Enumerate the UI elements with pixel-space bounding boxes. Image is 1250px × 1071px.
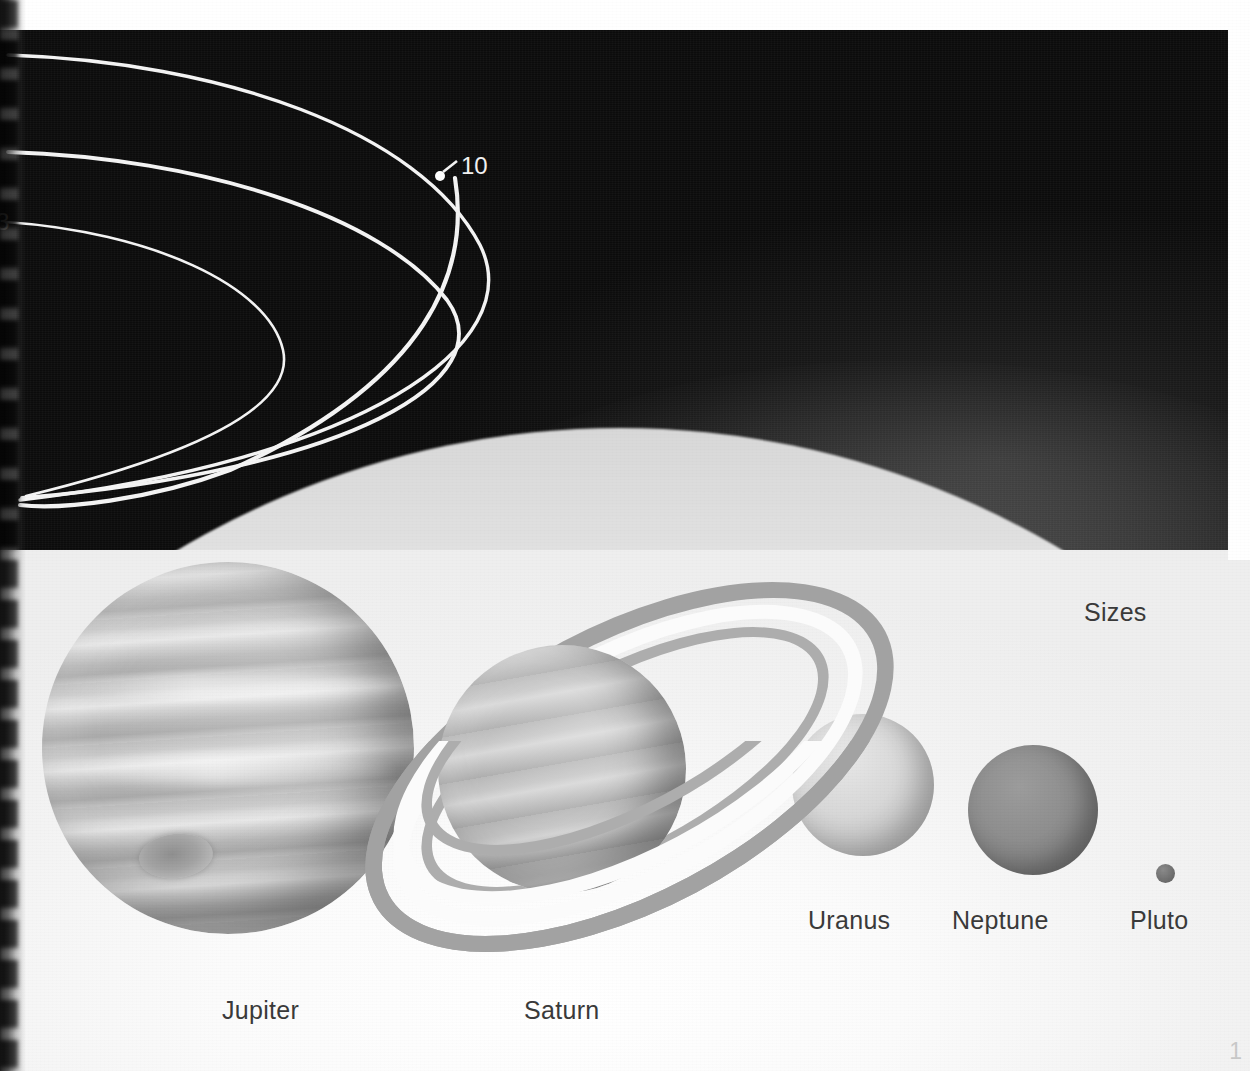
starfield-sky (0, 30, 1228, 550)
planet-label-pluto: Pluto (1130, 906, 1188, 935)
jupiter-great-red-spot (137, 830, 215, 881)
diagram-heading-sizes: Sizes (1084, 598, 1147, 627)
top-white-margin (0, 0, 1250, 30)
planet-neptune (968, 745, 1098, 875)
scanned-page: 10 3 Sizes Jupiter Saturn Uranus Neptune… (0, 0, 1250, 1071)
page-number: 1 (1229, 1038, 1242, 1065)
saturn-rings-front (330, 741, 910, 1005)
orbit-label-10: 10 (461, 152, 488, 180)
planet-label-neptune: Neptune (952, 906, 1049, 935)
planet-saturn-group (330, 505, 910, 1005)
page-gutter-binding-marks (0, 0, 18, 1071)
planet-pluto (1156, 864, 1175, 883)
planet-label-jupiter: Jupiter (222, 996, 299, 1025)
right-white-margin (1228, 0, 1250, 560)
